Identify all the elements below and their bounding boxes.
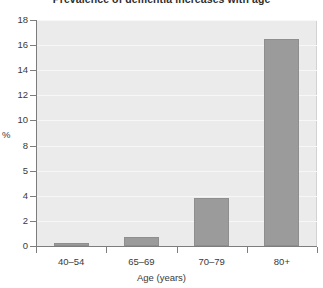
x-axis-category-label: 65–69	[106, 256, 176, 267]
bar	[264, 39, 299, 246]
y-axis-tick-label: 8	[2, 140, 28, 151]
y-axis-tick-label: 14	[2, 64, 28, 75]
x-axis-tick	[36, 247, 37, 253]
x-axis-category-label: 40–54	[36, 256, 106, 267]
y-axis-tick	[30, 70, 36, 71]
y-axis-tick	[30, 146, 36, 147]
y-axis-tick-label: 5	[2, 165, 28, 176]
y-axis-tick-label: 16	[2, 39, 28, 50]
x-axis-title: Age (years)	[0, 272, 323, 283]
y-axis-tick	[30, 45, 36, 46]
plot-right-edge	[316, 20, 317, 246]
y-axis-line	[36, 20, 37, 247]
y-axis-tick-label: 12	[2, 89, 28, 100]
x-axis-tick	[247, 247, 248, 253]
y-axis-title: %	[2, 129, 10, 140]
y-axis-tick	[30, 196, 36, 197]
bar-chart: Prevalence of dementia increases with ag…	[0, 0, 323, 288]
bar	[194, 198, 229, 246]
y-axis-tick	[30, 95, 36, 96]
y-axis-tick-label: 18	[2, 14, 28, 25]
y-axis-tick-label: 4	[2, 190, 28, 201]
y-axis-tick	[30, 20, 36, 21]
bar	[124, 237, 159, 246]
x-axis-category-label: 70–79	[177, 256, 247, 267]
y-axis-tick-label: 2	[2, 215, 28, 226]
y-axis-tick-label: 10	[2, 114, 28, 125]
plot-area	[36, 20, 317, 246]
y-axis-tick	[30, 171, 36, 172]
chart-title: Prevalence of dementia increases with ag…	[0, 0, 323, 5]
x-axis-category-label: 80+	[247, 256, 317, 267]
y-axis-tick-label: 0	[2, 240, 28, 251]
x-axis-tick	[106, 247, 107, 253]
gridline	[36, 20, 317, 21]
x-axis-tick	[317, 247, 318, 253]
y-axis-tick	[30, 120, 36, 121]
y-axis-tick	[30, 221, 36, 222]
x-axis-tick	[177, 247, 178, 253]
